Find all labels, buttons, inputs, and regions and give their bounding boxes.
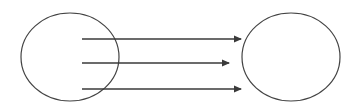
mapping-diagram <box>0 0 358 110</box>
left-set-ellipse <box>21 13 119 101</box>
right-set-ellipse <box>242 13 340 101</box>
